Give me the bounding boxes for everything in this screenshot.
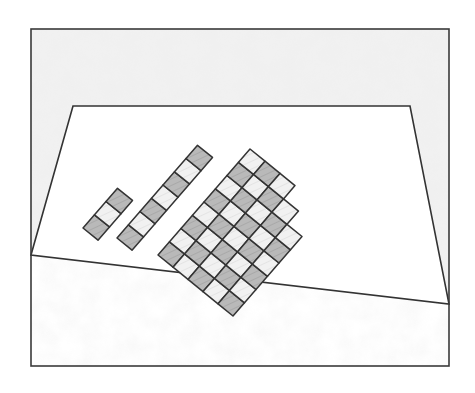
sketch-canvas (0, 0, 475, 393)
sketch-scene: Pencil sketch: a room interior (frame wi… (0, 0, 475, 393)
